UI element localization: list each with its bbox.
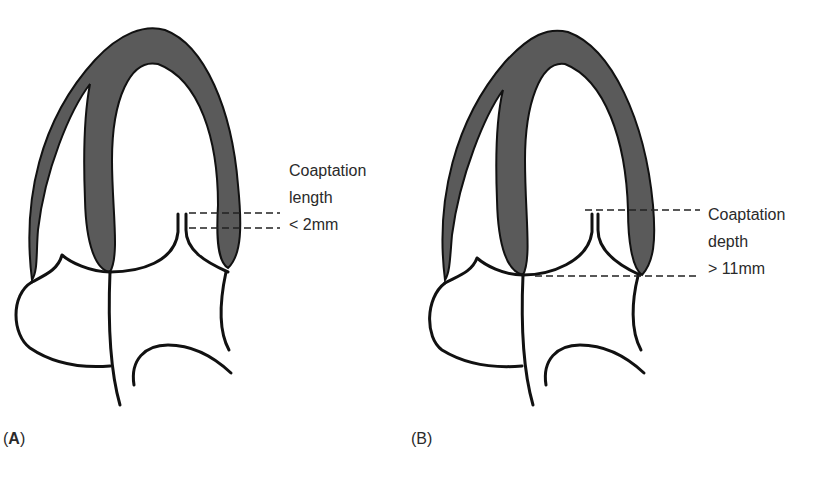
anterior-leaflet [523, 214, 592, 275]
lateral-line [633, 276, 641, 350]
septal-line [522, 275, 533, 405]
annotation-line-2: length [289, 184, 366, 211]
panel-a-label: (A) [3, 430, 25, 448]
aortic-arc [545, 345, 644, 385]
ventricle-wall [29, 28, 240, 280]
ventricle-wall [443, 31, 655, 280]
septal-line [109, 272, 120, 405]
panel-a-annotation: Coaptation length < 2mm [289, 157, 366, 238]
panel-b-label: (B) [411, 430, 432, 448]
anterior-leaflet [110, 214, 178, 272]
annotation-line-1: Coaptation [289, 157, 366, 184]
annotation-line-1: Coaptation [708, 201, 785, 228]
lateral-line [221, 272, 229, 350]
panel-b-annotation: Coaptation depth > 11mm [708, 201, 785, 282]
panel-a-heart-diagram [0, 0, 400, 486]
annotation-line-3: > 11mm [708, 255, 785, 282]
annotation-line-3: < 2mm [289, 211, 366, 238]
annotation-line-2: depth [708, 228, 785, 255]
atrium-lower-outline [430, 283, 522, 367]
atrium-lower-outline [16, 282, 110, 367]
aortic-arc [133, 345, 231, 385]
